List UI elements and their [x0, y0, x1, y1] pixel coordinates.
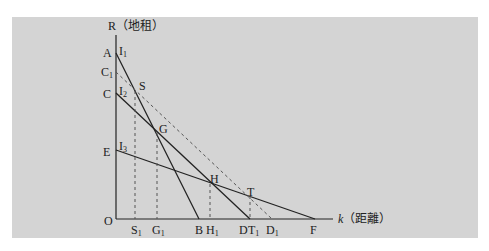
point-B-label: B	[195, 224, 203, 236]
point-E-label: E	[103, 146, 110, 158]
line-CD	[116, 93, 250, 219]
bid-rent-diagram	[0, 0, 489, 251]
point-H-label: H	[210, 173, 219, 185]
point-C-label: C	[103, 88, 111, 100]
origin-label: O	[104, 215, 113, 227]
point-T-label: T	[247, 186, 254, 198]
curve-I2-label: I2	[119, 85, 127, 99]
point-G-label: G	[159, 123, 168, 135]
point-D-label: D	[239, 224, 248, 236]
point-G1-label: G1	[152, 224, 165, 238]
curve-I3-label: I3	[119, 140, 127, 154]
point-F-label: F	[310, 224, 317, 236]
point-S-label: S	[139, 80, 146, 92]
point-D1-label: D1	[266, 224, 279, 238]
point-H1-label: H1	[206, 224, 219, 238]
point-T1-label: T1	[248, 224, 259, 238]
curve-I1-label: I1	[119, 45, 127, 59]
point-C1-label: C1	[101, 66, 113, 80]
x-axis-label: k（距離）	[338, 213, 391, 225]
point-A-label: A	[103, 47, 112, 59]
point-S1-label: S1	[131, 224, 142, 238]
y-axis-label: R（地租）	[108, 20, 164, 32]
